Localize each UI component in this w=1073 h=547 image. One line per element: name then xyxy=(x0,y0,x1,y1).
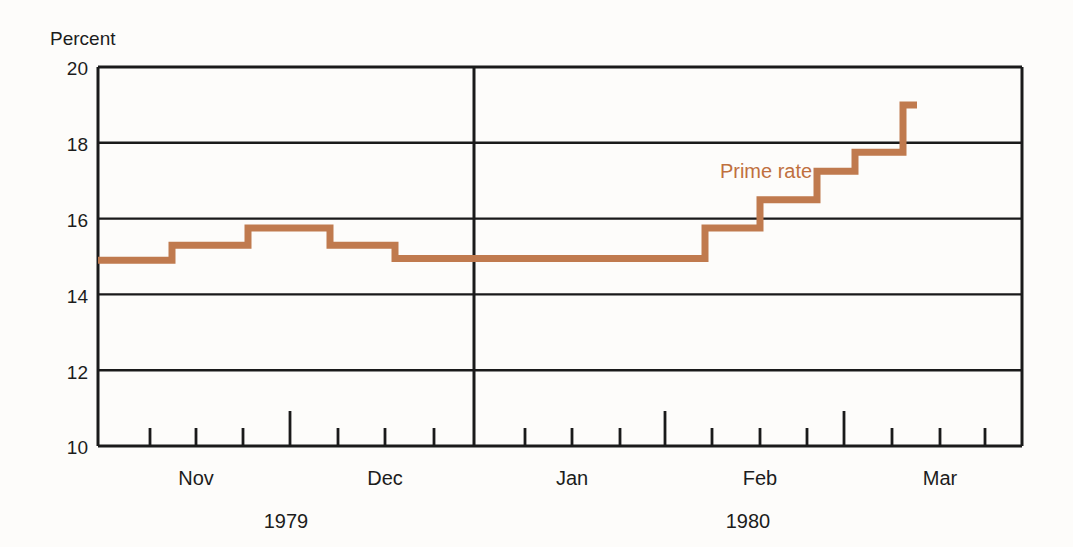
y-axis-unit-label: Percent xyxy=(50,28,116,49)
y-tick-label-16: 16 xyxy=(67,210,88,231)
x-month-label-nov: Nov xyxy=(178,467,214,489)
prime-rate-line-chart: Percent 20 18 16 14 12 10 Prime rate xyxy=(0,0,1073,547)
x-month-label-dec: Dec xyxy=(367,467,403,489)
x-month-label-feb: Feb xyxy=(743,467,777,489)
y-tick-label-12: 12 xyxy=(67,362,88,383)
y-tick-label-14: 14 xyxy=(67,286,89,307)
x-month-label-jan: Jan xyxy=(556,467,588,489)
x-year-label-1979: 1979 xyxy=(264,510,309,532)
chart-root: Percent 20 18 16 14 12 10 Prime rate xyxy=(0,0,1073,547)
y-tick-label-20: 20 xyxy=(67,58,88,79)
x-month-label-mar: Mar xyxy=(923,467,958,489)
y-tick-label-18: 18 xyxy=(67,134,88,155)
x-year-label-1980: 1980 xyxy=(726,510,771,532)
chart-background xyxy=(0,0,1073,547)
series-annotation-prime-rate: Prime rate xyxy=(720,160,812,182)
y-tick-label-10: 10 xyxy=(67,437,88,458)
